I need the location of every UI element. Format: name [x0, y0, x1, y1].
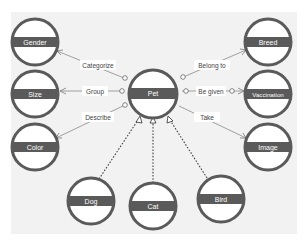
diagram-canvas: Categorize Group Describe Belong to [0, 0, 306, 247]
edge-label-categorize: Categorize [82, 62, 114, 70]
node-breed[interactable]: Breed [245, 19, 291, 65]
node-label-image: Image [258, 144, 278, 152]
aggregation-circle-icon [230, 89, 235, 94]
node-label-gender: Gender [23, 39, 47, 46]
node-label-breed: Breed [259, 39, 278, 46]
edge-describe[interactable]: Describe [56, 103, 127, 138]
node-gender[interactable]: Gender [12, 19, 58, 65]
aggregation-circle-icon [123, 76, 128, 81]
node-label-size: Size [28, 91, 42, 98]
edge-be-given[interactable]: Be given [182, 86, 244, 96]
edge-belong-to[interactable]: Belong to [181, 49, 246, 79]
node-pet[interactable]: Pet [129, 70, 177, 118]
aggregation-circle-icon [184, 89, 189, 94]
node-dog[interactable]: Dog [68, 178, 114, 224]
node-label-vaccination: Vaccination [252, 91, 284, 98]
class-diagram: Categorize Group Describe Belong to [0, 0, 306, 247]
node-label-dog: Dog [85, 198, 98, 206]
node-vaccination[interactable]: Vaccination [244, 71, 292, 117]
aggregation-circle-icon [123, 103, 128, 108]
node-label-bird: Bird [215, 196, 228, 203]
edge-label-describe: Describe [85, 114, 111, 121]
inheritance-arrow-icon [136, 116, 142, 123]
node-label-color: Color [27, 144, 44, 151]
node-size[interactable]: Size [12, 71, 58, 117]
node-color[interactable]: Color [12, 124, 58, 170]
edge-cat-inherits-pet[interactable] [150, 117, 156, 183]
inheritance-arrow-icon [167, 116, 173, 123]
node-label-cat: Cat [148, 203, 159, 210]
node-bird[interactable]: Bird [198, 176, 244, 222]
edge-categorize[interactable]: Categorize [57, 50, 127, 80]
edge-label-belong-to: Belong to [198, 62, 226, 70]
aggregation-circle-icon [181, 75, 186, 80]
node-image[interactable]: Image [245, 124, 291, 170]
edge-dog-inherits-pet[interactable] [99, 116, 142, 179]
aggregation-circle-icon [120, 89, 125, 94]
edge-label-group: Group [86, 88, 104, 96]
edge-group[interactable]: Group [60, 86, 124, 96]
node-cat[interactable]: Cat [130, 183, 176, 229]
edge-take[interactable]: Take [179, 106, 246, 138]
edge-label-take: Take [200, 114, 214, 121]
edge-label-be-given: Be given [198, 88, 224, 96]
edge-bird-inherits-pet[interactable] [167, 116, 207, 178]
node-label-pet: Pet [148, 90, 159, 97]
